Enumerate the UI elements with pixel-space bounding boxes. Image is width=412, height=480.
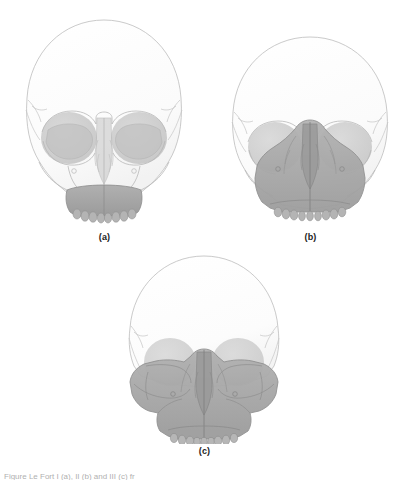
skull-anterior-view-b (218, 32, 403, 230)
figure-label-a: (a) (12, 232, 197, 242)
skull-anterior-view-a (12, 14, 197, 229)
figure-caption-text: Figure Le Fort I (a), II (b) and III (c)… (4, 473, 334, 480)
figure-label-b: (b) (218, 232, 403, 242)
skull-anterior-view-c (112, 252, 297, 444)
figure-panel-a: (a) (12, 14, 197, 229)
figure-caption-clipped: Figure Le Fort I (a), II (b) and III (c)… (4, 473, 334, 480)
le-fort-1-shaded-region (66, 185, 142, 223)
figure-label-c: (c) (112, 446, 297, 456)
figure-panel-c: (c) (112, 252, 297, 444)
figure-panel-b: (b) (218, 32, 403, 230)
le-fort-3-shaded-region (130, 349, 278, 444)
le-fort-fracture-figure-plate: (a) (0, 0, 412, 480)
